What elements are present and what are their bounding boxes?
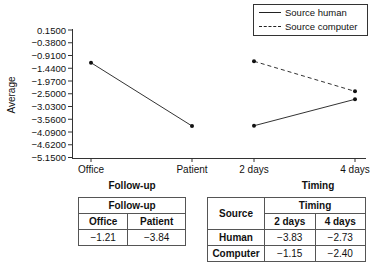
timing-header: Timing bbox=[265, 198, 366, 214]
x-tick-label: Patient bbox=[176, 164, 207, 175]
table-row: Computer −1.15 −2.40 bbox=[208, 246, 366, 262]
data-point bbox=[353, 97, 357, 101]
y-ticks: 0.1500−0.3800−0.9100−1.4400−1.9700−2.500… bbox=[31, 25, 72, 164]
data-point bbox=[252, 59, 256, 63]
col-2-days: 2 days bbox=[265, 214, 316, 230]
timing-table-title: Timing bbox=[270, 180, 366, 191]
followup-table-title: Follow-up bbox=[78, 180, 186, 191]
y-tick-label: −5.1500 bbox=[31, 152, 66, 163]
data-point bbox=[190, 124, 194, 128]
series-line bbox=[254, 99, 355, 125]
legend: Source human Source computer bbox=[253, 4, 368, 36]
x-tick-label: Office bbox=[78, 164, 104, 175]
y-tick-label: −0.9100 bbox=[31, 50, 66, 61]
source-header: Source bbox=[208, 198, 265, 230]
data-point bbox=[353, 89, 357, 93]
legend-item-human: Source human bbox=[254, 5, 367, 19]
cell-human-4-days: −2.73 bbox=[315, 230, 366, 246]
table-row: Human −3.83 −2.73 bbox=[208, 230, 366, 246]
col-4-days: 4 days bbox=[315, 214, 366, 230]
y-tick-label: 0.1500 bbox=[37, 25, 66, 36]
timing-table: Source Timing 2 days 4 days Human −3.83 … bbox=[207, 197, 366, 262]
legend-item-computer: Source computer bbox=[254, 19, 367, 33]
cell-computer-2-days: −1.15 bbox=[265, 246, 316, 262]
legend-label-human: Source human bbox=[285, 7, 347, 18]
row-label-computer: Computer bbox=[208, 246, 265, 262]
y-tick-label: −1.9700 bbox=[31, 76, 66, 87]
y-tick-label: −2.5000 bbox=[31, 88, 66, 99]
x-ticks: OfficePatient2 days4 days bbox=[78, 159, 370, 176]
cell-office: −1.21 bbox=[79, 230, 128, 246]
row-label-human: Human bbox=[208, 230, 265, 246]
cell-patient: −3.84 bbox=[128, 230, 186, 246]
col-patient: Patient bbox=[128, 214, 186, 230]
series-line bbox=[254, 61, 355, 91]
solid-line-icon bbox=[259, 12, 281, 13]
x-tick-label: 2 days bbox=[239, 164, 268, 175]
y-tick-label: −1.4400 bbox=[31, 63, 66, 74]
series-line bbox=[91, 63, 192, 126]
cell-computer-4-days: −2.40 bbox=[315, 246, 366, 262]
followup-header: Follow-up bbox=[79, 198, 186, 214]
dashed-line-icon bbox=[259, 26, 281, 27]
series-lines bbox=[89, 59, 357, 128]
y-tick-label: −3.0300 bbox=[31, 101, 66, 112]
y-tick-label: −4.0900 bbox=[31, 127, 66, 138]
x-tick-label: 4 days bbox=[340, 164, 369, 175]
data-point bbox=[89, 61, 93, 65]
data-point bbox=[252, 124, 256, 128]
followup-table: Follow-up Office Patient −1.21 −3.84 bbox=[78, 197, 186, 246]
cell-human-2-days: −3.83 bbox=[265, 230, 316, 246]
y-axis-label: Average bbox=[6, 76, 17, 114]
y-tick-label: −3.5600 bbox=[31, 114, 66, 125]
col-office: Office bbox=[79, 214, 128, 230]
legend-label-computer: Source computer bbox=[285, 21, 357, 32]
y-tick-label: −0.3800 bbox=[31, 37, 66, 48]
y-tick-label: −4.6200 bbox=[31, 139, 66, 150]
